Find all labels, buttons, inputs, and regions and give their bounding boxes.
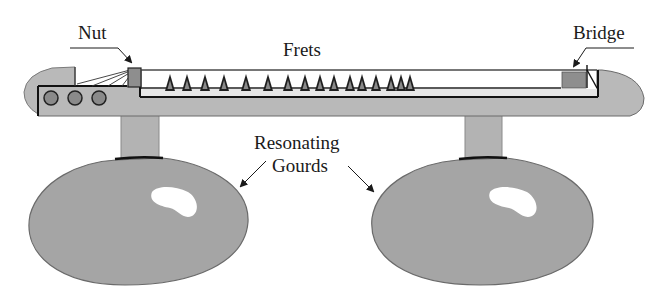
left-gourd-arrow (241, 161, 266, 186)
gourds-label-line2: Gourds (272, 155, 328, 176)
tuning-pegs (44, 91, 106, 105)
bridge-label: Bridge (573, 22, 625, 43)
nut (128, 68, 141, 87)
bridge-arrow (574, 48, 634, 66)
nut-label: Nut (78, 22, 107, 43)
stick-zither-diagram: Nut Frets Bridge Resonating Gourds (0, 0, 669, 303)
tuning-peg-icon (92, 91, 106, 105)
right-gourd (372, 157, 593, 285)
right-stem (465, 112, 502, 158)
nut-arrow (70, 48, 131, 62)
left-stem (121, 112, 159, 158)
frets-label: Frets (283, 39, 321, 60)
right-gourd-arrow (348, 166, 373, 191)
strings-head (77, 70, 132, 86)
left-gourd (29, 157, 248, 285)
tuning-peg-icon (44, 91, 58, 105)
gourds-label-line1: Resonating (254, 132, 340, 153)
bridge (562, 72, 586, 88)
tuning-peg-icon (68, 91, 82, 105)
